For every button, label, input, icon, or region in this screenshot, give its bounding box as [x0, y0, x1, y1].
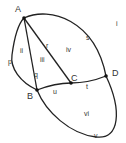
- vertex-label-c: C: [71, 73, 78, 83]
- region-label-iv: iv: [66, 46, 72, 53]
- edge-label-u: u: [53, 88, 57, 95]
- edge-r: [24, 18, 71, 83]
- region-label-vi: vi: [84, 110, 90, 117]
- vertex-b-dot: [35, 88, 39, 92]
- edge-label-v: v: [94, 132, 98, 139]
- edge-label-p: p: [8, 58, 12, 66]
- edge-label-s: s: [86, 34, 90, 41]
- edge-p: [12, 18, 37, 90]
- vertex-a-dot: [22, 16, 26, 20]
- vertex-label-d: D: [112, 68, 119, 78]
- edge-label-r: r: [46, 42, 49, 49]
- edge-s: [24, 14, 106, 76]
- edge-label-q: q: [34, 71, 38, 79]
- vertex-label-b: B: [27, 91, 33, 101]
- planar-graph-diagram: A B C D p q r s t u v i ii iii iv vi: [0, 0, 126, 143]
- edge-label-t: t: [86, 83, 88, 90]
- region-label-i: i: [116, 20, 118, 27]
- vertex-label-a: A: [15, 4, 21, 14]
- region-label-iii: iii: [40, 56, 45, 63]
- edge-v: [37, 76, 116, 137]
- region-label-ii: ii: [20, 47, 24, 54]
- edge-q: [24, 18, 37, 90]
- vertex-d-dot: [104, 74, 108, 78]
